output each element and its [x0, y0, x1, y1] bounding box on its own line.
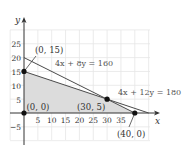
label-0-15: (0, 15): [35, 45, 63, 55]
y-tick-20: 20: [11, 54, 21, 63]
point-40-0: [132, 110, 137, 115]
x-tick-30: 30: [102, 116, 112, 125]
equation-4x-12y-180: 4x + 12y = 180: [118, 88, 181, 97]
y-tick-10: 10: [11, 82, 21, 91]
x-tick-10: 10: [47, 116, 57, 125]
y-tick-25: 25: [11, 40, 21, 49]
y-tick-15: 15: [11, 68, 21, 77]
point-0-15: [21, 69, 26, 74]
y-tick-neg5: −5: [10, 123, 21, 132]
x-tick-20: 20: [75, 116, 85, 125]
y-tick-5: 5: [16, 96, 21, 105]
equation-4x-8y-160: 4x + 8y = 160: [55, 59, 113, 68]
label-30-5: (30, 5): [77, 102, 105, 112]
x-axis-label: x: [155, 116, 160, 126]
x-tick-25: 25: [88, 116, 98, 125]
label-0-0: (0, 0): [27, 102, 50, 112]
point-30-5: [105, 97, 110, 102]
x-tick-35: 35: [116, 116, 126, 125]
feasible-region-chart: y x 25 20 15 10 5 −5 5 10 15 20 25 30 35…: [0, 0, 195, 149]
x-tick-15: 15: [61, 116, 71, 125]
y-axis-label: y: [14, 15, 21, 25]
x-tick-5: 5: [35, 116, 40, 125]
label-40-0: (40, 0): [117, 129, 145, 139]
